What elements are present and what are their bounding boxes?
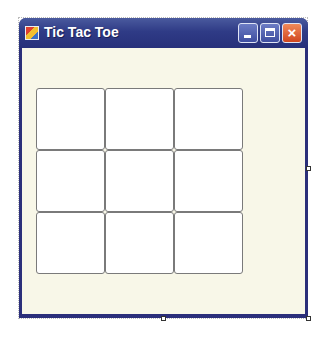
cell-r1-c2[interactable] [105,88,174,150]
maximize-icon [265,28,275,37]
window-title: Tic Tac Toe [44,24,119,40]
resize-handle-right[interactable] [306,166,311,171]
resize-handle-corner[interactable] [306,316,311,321]
close-icon: × [283,24,301,42]
close-button[interactable]: × [282,23,302,43]
cell-r1-c3[interactable] [174,88,243,150]
cell-r2-c1[interactable] [36,150,105,212]
title-bar[interactable]: Tic Tac Toe × [19,18,308,48]
cell-r2-c2[interactable] [105,150,174,212]
cell-r3-c1[interactable] [36,212,105,274]
cell-r2-c3[interactable] [174,150,243,212]
cell-r3-c2[interactable] [105,212,174,274]
resize-handle-bottom[interactable] [161,316,166,321]
cell-r1-c1[interactable] [36,88,105,150]
game-board [36,88,244,276]
maximize-button[interactable] [260,23,280,43]
form-client-area [22,48,305,314]
app-icon[interactable] [25,26,39,40]
tic-tac-toe-window: Tic Tac Toe × [19,18,308,318]
cell-r3-c3[interactable] [174,212,243,274]
minimize-icon [244,35,251,38]
minimize-button[interactable] [238,23,258,43]
